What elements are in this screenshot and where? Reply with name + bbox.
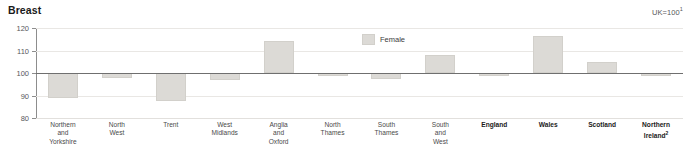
y-tick-80 (32, 118, 36, 119)
y-tick-label-100: 100 (16, 69, 29, 78)
legend-label-female: Female (380, 35, 405, 44)
chart-root: Breast UK=1001 8090100110120 Female Nort… (0, 0, 691, 162)
uk-baseline-note-superscript: 1 (680, 6, 683, 12)
uk-baseline-note: UK=1001 (652, 6, 683, 17)
y-tick-label-80: 80 (21, 114, 29, 123)
bar-female[interactable] (48, 73, 78, 98)
bar-female[interactable] (533, 36, 563, 73)
x-axis-label: South and West (413, 121, 467, 146)
plot-area: 8090100110120 (36, 28, 683, 118)
x-axis-label: Northern Ireland2 (629, 121, 683, 141)
bar-female[interactable] (156, 73, 186, 101)
x-axis-label: England (467, 121, 521, 129)
bar-female[interactable] (425, 55, 455, 73)
x-axis-label: Trent (144, 121, 198, 129)
y-tick-label-110: 110 (17, 46, 29, 55)
x-axis-label: Scotland (575, 121, 629, 129)
chart-title: Breast (8, 4, 41, 16)
x-axis-label: West Midlands (198, 121, 252, 138)
x-axis-label: South Thames (360, 121, 414, 138)
x-axis-label: Wales (521, 121, 575, 129)
x-axis-label: North Thames (306, 121, 360, 138)
uk-baseline-note-text: UK=100 (652, 8, 680, 17)
gridline-100 (36, 73, 683, 74)
x-axis-label: North West (90, 121, 144, 138)
chart-legend: Female (362, 34, 405, 45)
legend-swatch-female (362, 34, 375, 45)
y-tick-label-120: 120 (16, 24, 29, 33)
y-tick-label-90: 90 (21, 91, 29, 100)
gridline-80 (36, 118, 683, 119)
bar-female[interactable] (587, 62, 617, 73)
x-axis-label: Northern and Yorkshire (36, 121, 90, 146)
x-label-superscript: 2 (665, 130, 668, 136)
x-axis-label: Anglia and Oxford (252, 121, 306, 146)
x-axis-labels: Northern and YorkshireNorth WestTrentWes… (36, 121, 683, 161)
bar-female[interactable] (264, 41, 294, 73)
bar-female[interactable] (210, 73, 240, 80)
